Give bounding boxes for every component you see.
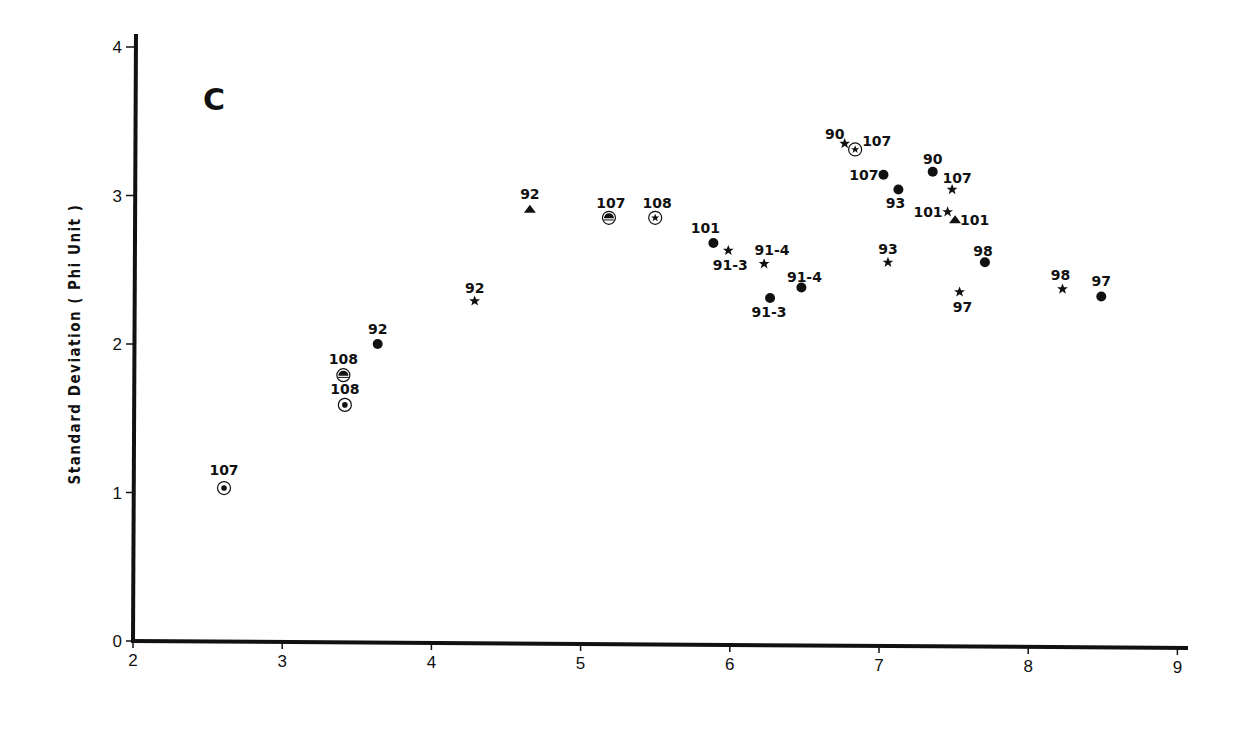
point-label: 93 <box>886 195 905 211</box>
dot-marker-icon <box>373 339 383 349</box>
data-point: 107 <box>596 195 625 225</box>
x-axis-line <box>131 641 1188 648</box>
data-point: 107 <box>942 170 971 195</box>
data-point: 107 <box>849 133 892 156</box>
point-label: 101 <box>691 220 720 236</box>
point-label: 93 <box>878 241 897 257</box>
x-tick: 8 <box>1023 647 1032 676</box>
scatter-chart: 01234 23456789 C Standard Deviation ( Ph… <box>0 0 1247 732</box>
y-axis-title: Standard Deviation ( Phi Unit ) <box>66 204 84 485</box>
ringed-star-marker-icon <box>649 211 662 224</box>
y-tick-label: 2 <box>113 335 122 354</box>
data-point: 90 <box>825 126 850 149</box>
y-axis-ticks: 01234 <box>113 38 134 651</box>
ringed-star-marker-icon <box>849 143 862 156</box>
axes: 01234 23456789 <box>113 34 1188 677</box>
x-tick: 2 <box>128 641 137 670</box>
data-point: 108 <box>330 381 359 412</box>
point-label: 97 <box>1092 273 1111 289</box>
y-tick-label: 3 <box>113 187 122 206</box>
data-point: 92 <box>368 321 387 349</box>
y-tick-label: 0 <box>113 632 122 651</box>
data-point: 91-4 <box>755 242 790 269</box>
data-point: 98 <box>1051 267 1070 294</box>
data-point: 97 <box>953 287 972 316</box>
x-tick-label: 9 <box>1173 658 1182 677</box>
y-tick: 2 <box>113 335 134 354</box>
point-label: 91-3 <box>713 257 748 273</box>
dot-marker-icon <box>708 238 718 248</box>
ringed-dot-marker-icon <box>218 482 231 495</box>
x-tick: 4 <box>427 643 436 672</box>
ringed-dot-marker-icon <box>338 398 351 411</box>
star-marker-icon <box>759 258 770 268</box>
point-label: 101 <box>960 212 989 228</box>
dot-marker-icon <box>878 170 888 180</box>
point-label: 91-3 <box>752 304 787 320</box>
dot-marker-icon <box>765 293 775 303</box>
star-marker-icon <box>954 287 965 297</box>
x-tick: 5 <box>576 644 585 673</box>
y-tick: 4 <box>113 38 134 57</box>
y-tick: 1 <box>113 484 134 503</box>
data-point: 93 <box>878 241 897 267</box>
triangle-marker-icon <box>524 205 536 213</box>
data-point: 92 <box>520 186 539 213</box>
data-point: 98 <box>973 243 992 267</box>
dot-marker-icon <box>928 167 938 177</box>
x-tick: 6 <box>725 645 734 674</box>
x-tick: 3 <box>277 642 286 671</box>
star-marker-icon <box>469 295 480 305</box>
dot-marker-icon <box>893 185 903 195</box>
data-point: 108 <box>643 195 672 225</box>
y-tick-label: 4 <box>113 38 122 57</box>
data-point: 101 <box>913 204 953 220</box>
data-point: 107 <box>849 167 888 183</box>
point-label: 107 <box>596 195 625 211</box>
x-tick: 9 <box>1173 648 1182 677</box>
x-tick-label: 2 <box>128 651 137 670</box>
point-label: 107 <box>862 133 891 149</box>
point-label: 98 <box>973 243 992 259</box>
data-point: 91-3 <box>752 293 787 320</box>
point-label: 107 <box>209 462 238 478</box>
panel-label: C <box>203 82 225 117</box>
point-label: 101 <box>913 204 942 220</box>
dot-marker-icon <box>1096 291 1106 301</box>
x-tick-label: 6 <box>725 655 734 674</box>
star-marker-icon <box>942 206 953 216</box>
point-label: 90 <box>923 151 943 167</box>
ringed-triangle-marker-icon <box>602 211 615 224</box>
x-tick-label: 8 <box>1023 657 1032 676</box>
point-label: 108 <box>643 195 672 211</box>
point-label: 107 <box>849 167 878 183</box>
star-marker-icon <box>723 245 734 255</box>
x-tick-label: 3 <box>277 652 286 671</box>
data-point: 101 <box>691 220 720 248</box>
point-label: 108 <box>330 381 359 397</box>
data-point: 91-4 <box>787 269 822 293</box>
point-label: 91-4 <box>755 242 790 258</box>
star-marker-icon <box>883 257 894 267</box>
point-label: 92 <box>368 321 387 337</box>
data-point: 107 <box>209 462 238 495</box>
data-point: 91-3 <box>713 245 748 274</box>
point-label: 90 <box>825 126 845 142</box>
x-tick-label: 5 <box>576 654 585 673</box>
x-tick-label: 4 <box>427 653 436 672</box>
star-marker-icon <box>947 184 958 194</box>
data-point: 101 <box>949 212 989 228</box>
point-label: 97 <box>953 299 972 315</box>
y-tick: 3 <box>113 187 134 206</box>
data-points: 10710810892929210710810191-391-491-391-4… <box>209 126 1111 495</box>
data-point: 93 <box>886 185 905 211</box>
point-label: 92 <box>465 280 484 296</box>
data-point: 90 <box>923 151 943 177</box>
data-point: 92 <box>465 280 484 306</box>
y-tick-label: 1 <box>113 484 122 503</box>
x-tick: 7 <box>874 646 883 675</box>
point-label: 107 <box>942 170 971 186</box>
x-tick-label: 7 <box>874 656 883 675</box>
data-point: 108 <box>329 351 358 382</box>
data-point: 97 <box>1092 273 1111 301</box>
